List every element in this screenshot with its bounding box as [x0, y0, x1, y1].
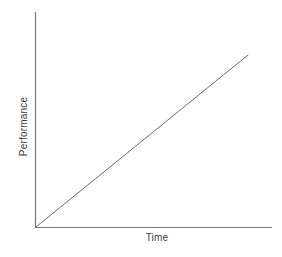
x-axis-label: Time — [0, 232, 282, 243]
chart-plot-area — [0, 0, 282, 257]
line-chart-figure: Performance Time — [0, 0, 282, 257]
y-axis-label: Performance — [17, 93, 30, 161]
chart-background — [0, 0, 282, 257]
